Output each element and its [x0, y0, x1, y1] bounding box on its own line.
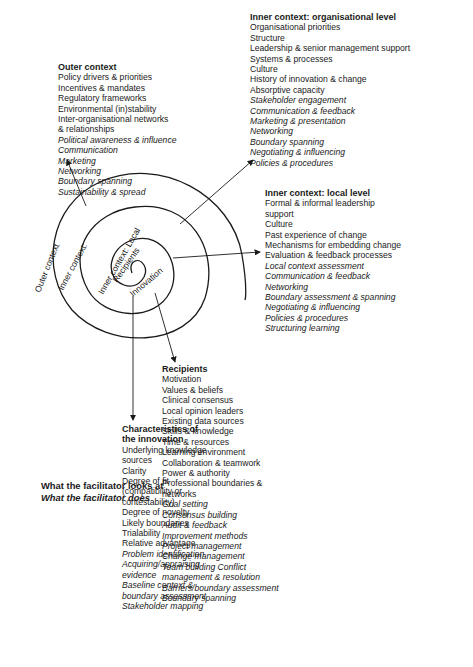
list-item: Stakeholder engagement [250, 95, 410, 105]
list-item: Existing data sources [162, 416, 279, 426]
list-item: Mechanisms for embedding change [265, 240, 401, 250]
list-item: Environmental (in)stability [58, 104, 176, 114]
list-item: Professional boundaries & [162, 478, 279, 488]
list-item: Incentives & mandates [58, 83, 176, 93]
list-item: Communication & feedback [265, 271, 401, 281]
list-item: Local context assessment [265, 261, 401, 271]
list-item: Boundary spanning [162, 593, 279, 603]
list-item: Motivation [162, 374, 279, 384]
list-item: Improvement methods [162, 531, 279, 541]
list-item: Policies & procedures [265, 313, 401, 323]
list-item: Systems & processes [250, 54, 410, 64]
list-item: Values & beliefs [162, 385, 279, 395]
list-item: Skills & knowledge [162, 426, 279, 436]
list-item: Audit & feedback [162, 520, 279, 530]
list-item: Absorptive capacity [250, 85, 410, 95]
list-item: Power & authority [162, 468, 279, 478]
list-item: Negotiating & influencing [265, 302, 401, 312]
label-innovation: Innovation [128, 265, 165, 298]
arrow-local [173, 252, 260, 258]
list-item: Change management [162, 551, 279, 561]
list-item: Organisational priorities [250, 22, 410, 32]
organisational-level-list: Inner context: organisational level Orga… [250, 12, 410, 168]
arrow-organisational [180, 160, 253, 224]
list-item: Clinical consensus [162, 395, 279, 405]
list-item: Networking [265, 282, 401, 292]
list-item: Learning environment [162, 447, 279, 457]
list-item: Marketing & presentation [250, 116, 410, 126]
list-item: & relationships [58, 124, 176, 134]
recipients-list: Recipients MotivationValues & beliefsCli… [162, 364, 279, 603]
list-item: Political awareness & influence [58, 135, 176, 145]
list-item: Communication & feedback [250, 106, 410, 116]
list-item: Leadership & senior management support [250, 43, 410, 53]
list-item: networks [162, 489, 279, 499]
list-item: Structuring learning [265, 323, 401, 333]
list-item: Policies & procedures [250, 158, 410, 168]
list-item: Barriers/boundary assessment [162, 583, 279, 593]
list-item: Sustainability & spread [58, 187, 176, 197]
list-item: Time & resources [162, 437, 279, 447]
list-item: Networking [58, 166, 176, 176]
list-item: Communication [58, 145, 176, 155]
list-item: Culture [265, 219, 401, 229]
local-heading: Inner context: local level [265, 188, 401, 198]
list-item: Policy drivers & priorities [58, 72, 176, 82]
list-item: Consensus building [162, 510, 279, 520]
list-item: Boundary assessment & spanning [265, 292, 401, 302]
organisational-heading: Inner context: organisational level [250, 12, 410, 22]
recipients-heading: Recipients [162, 364, 279, 374]
list-item: Structure [250, 33, 410, 43]
list-item: Regulatory frameworks [58, 93, 176, 103]
list-item: Formal & informal leadership [265, 198, 401, 208]
list-item: Collaboration & teamwork [162, 458, 279, 468]
list-item: Boundary spanning [250, 137, 410, 147]
list-item: Inter-organisational networks [58, 114, 176, 124]
list-item: Networking [250, 126, 410, 136]
outer-context-list: Outer context Policy drivers & prioritie… [58, 62, 176, 197]
list-item: Goal setting [162, 499, 279, 509]
list-item: Culture [250, 64, 410, 74]
list-item: Local opinion leaders [162, 406, 279, 416]
list-item: management & resolution [162, 572, 279, 582]
arrow-recipients [155, 293, 175, 362]
list-item: Negotiating & influencing [250, 147, 410, 157]
list-item: History of innovation & change [250, 74, 410, 84]
local-level-list: Inner context: local level Formal & info… [265, 188, 401, 334]
outer-heading: Outer context [58, 62, 176, 72]
list-item: Past experience of change [265, 230, 401, 240]
list-item: Evaluation & feedback processes [265, 250, 401, 260]
list-item: Project management [162, 541, 279, 551]
label-inner-context: Inner context: [56, 241, 89, 292]
list-item: Marketing [58, 156, 176, 166]
list-item: support [265, 209, 401, 219]
list-item: Boundary spanning [58, 176, 176, 186]
list-item: Team building Conflict [162, 562, 279, 572]
